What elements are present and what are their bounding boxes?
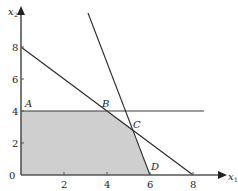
y-axis-label-subscript: 2 [14, 11, 18, 18]
vertex-label-a: A [24, 98, 32, 109]
y-tick-label: 0 [9, 170, 15, 181]
y-tick-label: 2 [12, 138, 18, 149]
x-axis-label-subscript: 1 [234, 176, 238, 183]
y-axis-arrow-icon [17, 6, 25, 15]
x-tick-label: 6 [147, 179, 153, 190]
x-axis-arrow-icon [218, 171, 227, 179]
y-tick-label: 4 [12, 106, 18, 117]
y-tick-label: 6 [12, 74, 18, 85]
y-tick-label: 8 [12, 42, 18, 53]
x-tick-label: 2 [61, 179, 67, 190]
vertex-label-c: C [133, 119, 141, 130]
vertex-label-d: D [150, 161, 159, 172]
x-tick-label: 8 [190, 179, 196, 190]
x-tick-label: 4 [104, 179, 110, 190]
feasible-region-plot: x 2 x 1 0 2 4 6 8 2 4 6 8 A B C D [0, 0, 238, 191]
feasible-region [21, 111, 150, 175]
vertex-label-b: B [101, 98, 109, 109]
